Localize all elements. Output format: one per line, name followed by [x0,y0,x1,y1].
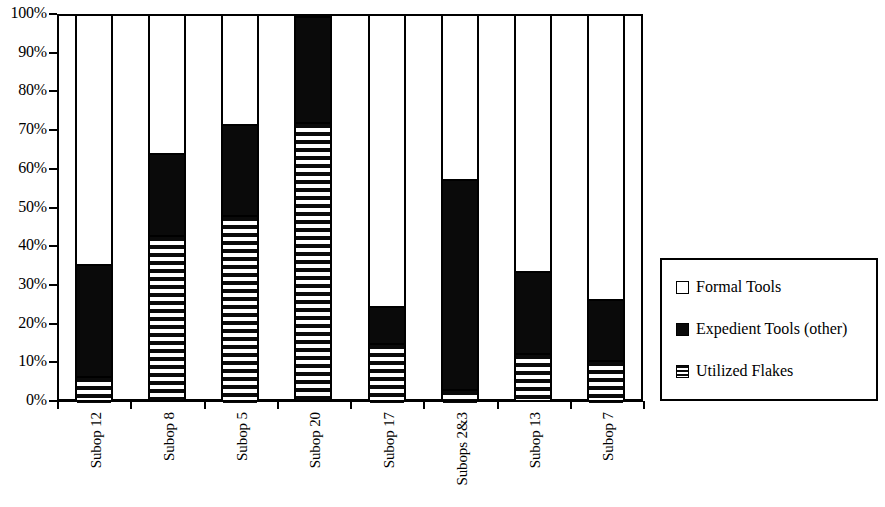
y-axis-tick-mark [49,245,57,247]
x-axis-tick-mark [497,401,499,409]
bar-group [148,16,186,399]
bar-group [75,16,113,399]
x-axis-category-label: Subop 13 [526,412,544,507]
bar-segment-formal-tools [370,16,404,306]
bar-segment-formal-tools [150,16,184,153]
y-axis-tick-label: 100% [10,3,47,23]
y-axis-tick-mark [49,361,57,363]
bar-segment-expedient-tools [443,179,477,390]
solid-box-icon [676,323,689,336]
bar-group [221,16,259,399]
bar [514,16,552,399]
bar-segment-utilized-flakes [150,235,184,403]
x-axis-category-label: Subop 20 [306,412,324,507]
empty-box-icon [676,281,689,294]
bar-segment-expedient-tools [150,153,184,234]
bar-segment-formal-tools [223,16,257,124]
bar [221,16,259,399]
y-axis-tick-label: 60% [18,158,47,178]
y-axis-tick-label: 80% [18,80,47,100]
bar-segment-formal-tools [77,16,111,264]
bar-segment-expedient-tools [223,124,257,215]
bar-group [441,16,479,399]
x-axis-category-label: Subop 17 [380,412,398,507]
y-axis-tick-label: 10% [18,351,47,371]
bar-segment-formal-tools [516,16,550,271]
x-axis-tick-mark [643,401,645,409]
legend-item-label: Utilized Flakes [696,362,793,380]
chart-legend: Formal ToolsExpedient Tools (other)Utili… [660,258,878,401]
y-axis-tick-label: 70% [18,119,47,139]
bar-segment-utilized-flakes [516,353,550,403]
bar-segment-expedient-tools [370,306,404,343]
bar-segment-expedient-tools [516,271,550,352]
bar-segment-expedient-tools [296,16,330,122]
bar-segment-expedient-tools [77,264,111,376]
x-axis-category-label: Subops 2&3 [453,412,471,507]
bar-segment-utilized-flakes [296,122,330,403]
stacked-bar-chart: 100%90%80%70%60%50%40%30%20%10%0% Subop … [0,0,885,507]
y-axis-tick-mark [49,284,57,286]
y-axis-tick-mark [49,168,57,170]
plot-area [57,14,643,401]
y-axis-tick-mark [49,323,57,325]
bar-segment-utilized-flakes [77,376,111,403]
x-axis-category-label: Subop 8 [160,412,178,507]
bar [148,16,186,399]
y-axis-tick-mark [49,52,57,54]
x-axis-category-label: Subop 12 [87,412,105,507]
y-axis-tick-label: 0% [26,390,47,410]
y-axis-tick-label: 90% [18,42,47,62]
x-axis-tick-mark [57,401,59,409]
x-axis-tick-mark [350,401,352,409]
x-axis-tick-mark [423,401,425,409]
y-axis-tick-label: 50% [18,197,47,217]
y-axis-tick-label: 40% [18,235,47,255]
bar [368,16,406,399]
y-axis-tick-mark [49,13,57,15]
bar-segment-formal-tools [589,16,623,299]
bar-group [514,16,552,399]
striped-box-icon [676,365,689,378]
bar [75,16,113,399]
bar-segment-formal-tools [443,16,477,179]
bar-segment-expedient-tools [589,299,623,361]
y-axis-tick-mark [49,129,57,131]
y-axis-tick-mark [49,207,57,209]
bar-group [368,16,406,399]
bar-segment-utilized-flakes [223,215,257,403]
x-axis-tick-mark [204,401,206,409]
x-axis-tick-mark [130,401,132,409]
x-axis-category-label: Subop 5 [233,412,251,507]
x-axis-tick-mark [277,401,279,409]
y-axis-tick-label: 20% [18,313,47,333]
legend-item-label: Formal Tools [696,278,781,296]
bar [441,16,479,399]
x-axis-tick-mark [570,401,572,409]
bar-group [587,16,625,399]
y-axis-tick-mark [49,90,57,92]
legend-item: Utilized Flakes [676,360,793,382]
bar-segment-utilized-flakes [589,360,623,403]
bar [294,16,332,399]
legend-item: Formal Tools [676,276,781,298]
bar-segment-utilized-flakes [370,343,404,403]
y-axis: 100%90%80%70%60%50%40%30%20%10%0% [0,14,57,401]
bar-group [294,16,332,399]
y-axis-tick-mark [49,400,57,402]
x-axis-category-label: Subop 7 [599,412,617,507]
y-axis-tick-label: 30% [18,274,47,294]
bar [587,16,625,399]
legend-item-label: Expedient Tools (other) [696,320,847,338]
legend-item: Expedient Tools (other) [676,318,847,340]
